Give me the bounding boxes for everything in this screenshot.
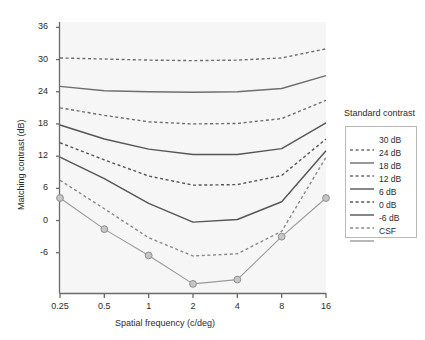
legend-item-12-db: 12 dB	[350, 172, 416, 185]
x-axis-label: Spatial frequency (c/deg)	[0, 318, 330, 328]
figure-container: Matching contrast (dB) Spatial frequency…	[0, 0, 425, 340]
legend-item-30-db: 30 dB	[350, 133, 416, 146]
y-tick-label: 18	[8, 118, 48, 128]
legend-item--6-db: -6 dB	[350, 211, 416, 224]
data-point-marker	[234, 276, 241, 283]
legend-item-18-db: 18 dB	[350, 159, 416, 172]
data-point-marker	[145, 252, 152, 259]
data-point-marker	[190, 280, 197, 287]
data-point-marker	[323, 195, 330, 202]
legend-item-label: 18 dB	[379, 161, 401, 171]
y-tick-label: -6	[8, 247, 48, 257]
plot-background	[60, 22, 326, 293]
x-tick-label: 16	[306, 301, 346, 311]
y-tick-label: 30	[8, 54, 48, 64]
legend: 30 dB24 dB18 dB12 dB6 dB0 dB-6 dBCSF	[345, 126, 417, 238]
y-tick-label: 12	[8, 150, 48, 160]
legend-item-csf: CSF	[350, 224, 416, 237]
legend-item-label: 12 dB	[379, 174, 401, 184]
legend-item-label: 30 dB	[379, 135, 401, 145]
legend-item-label: -6 dB	[379, 213, 399, 223]
x-tick-label: 0.25	[40, 301, 80, 311]
y-axis-label: Matching contrast (dB)	[16, 119, 26, 210]
legend-item-label: 0 dB	[379, 200, 397, 210]
x-tick-label: 4	[217, 301, 257, 311]
data-point-marker	[278, 233, 285, 240]
legend-item-24-db: 24 dB	[350, 146, 416, 159]
data-point-marker	[57, 195, 64, 202]
x-tick-label: 0.5	[84, 301, 124, 311]
legend-item-6-db: 6 dB	[350, 185, 416, 198]
data-point-marker	[101, 226, 108, 233]
x-tick-label: 2	[173, 301, 213, 311]
y-tick-label: 6	[8, 182, 48, 192]
x-tick-label: 1	[129, 301, 169, 311]
legend-item-label: 6 dB	[379, 187, 397, 197]
legend-item-label: 24 dB	[379, 148, 401, 158]
y-tick-label: 24	[8, 86, 48, 96]
y-tick-label: 0	[8, 215, 48, 225]
legend-item-label: CSF	[379, 226, 396, 236]
legend-title: Standard contrast	[344, 108, 415, 118]
x-tick-label: 8	[262, 301, 302, 311]
y-tick-label: 36	[8, 21, 48, 31]
legend-item-0-db: 0 dB	[350, 198, 416, 211]
